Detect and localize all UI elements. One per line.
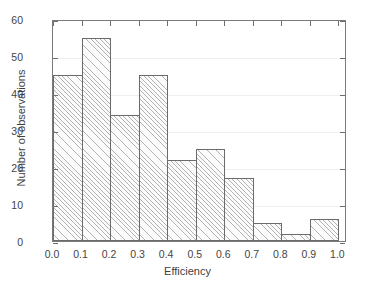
histogram-bar [139, 75, 169, 242]
y-tick-label: 60 [11, 15, 23, 26]
histogram-figure: 0102030405060 0.00.10.20.30.40.50.60.70.… [0, 0, 375, 287]
histogram-bar [53, 75, 83, 242]
histogram-bar [310, 219, 340, 241]
tick-y-0 [53, 243, 58, 244]
y-tick-label: 0 [17, 237, 23, 248]
x-tick-label: 1.0 [317, 249, 357, 260]
histogram-bar [82, 38, 112, 242]
histogram-bar [253, 223, 283, 242]
histogram-bar [224, 178, 254, 241]
tick-y-right-0 [340, 243, 345, 244]
y-axis-title: Number of observations [15, 48, 27, 208]
plot-area [52, 20, 346, 242]
histogram-bar [110, 115, 140, 241]
histogram-bar [167, 160, 197, 241]
histogram-bar [281, 234, 311, 241]
histogram-bar [196, 149, 226, 242]
x-axis-title: Efficiency [0, 265, 375, 277]
bars-container [53, 21, 345, 241]
